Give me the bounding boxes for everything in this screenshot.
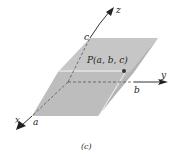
x-axis (22, 116, 32, 125)
intercept-b-label: b (134, 85, 140, 95)
diagram-canvas: z y x c b a P(a, b, c) (c) (0, 0, 174, 154)
point-p-label: P(a, b, c) (86, 55, 128, 65)
y-axis-label: y (160, 70, 167, 80)
z-axis (90, 11, 110, 38)
intercept-a-label: a (33, 117, 38, 127)
x-axis-label: x (15, 115, 20, 125)
intercept-c-label: c (84, 32, 89, 42)
plane-front-face (32, 72, 134, 116)
figure-caption: (c) (81, 142, 92, 151)
point-p-marker (122, 69, 126, 73)
z-axis-label: z (115, 5, 121, 15)
